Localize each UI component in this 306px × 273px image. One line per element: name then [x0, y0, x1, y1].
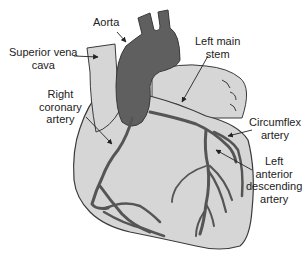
label-superior-vena-cava: Superior vena cava	[9, 46, 78, 71]
label-right-coronary-artery: Right coronary artery	[39, 88, 82, 126]
label-aorta: Aorta	[93, 16, 119, 29]
aorta-arrow	[117, 32, 126, 42]
label-left-main-stem: Left main stem	[195, 35, 240, 60]
label-left-anterior-descending-artery: Left anterior descending artery	[246, 155, 302, 205]
label-circumflex-artery: Circumflex artery	[249, 116, 301, 141]
